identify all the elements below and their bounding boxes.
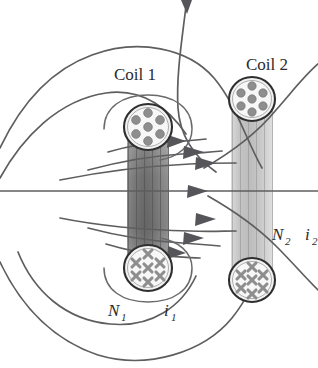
dot-icon: [132, 116, 141, 125]
coil-1-bottom-cross-section: [124, 245, 172, 291]
field-diagram-canvas: Coil 1 Coil 2 N 1 i 1 N 2 i 2: [0, 0, 318, 368]
solenoid-body-coil-2: [231, 100, 273, 278]
coil-2-label: Coil 2: [246, 55, 288, 74]
physics-figure: Coil 1 Coil 2 N 1 i 1 N 2 i 2: [0, 0, 318, 368]
i2-subscript: 2: [312, 235, 318, 247]
n1-subscript: 1: [121, 311, 127, 323]
coil-1-label: Coil 1: [114, 65, 156, 84]
coil-2-bottom-cross-section: [229, 258, 275, 302]
dot-icon: [156, 116, 165, 125]
n1-symbol: N: [107, 301, 121, 320]
dot-icon: [259, 102, 267, 110]
dot-icon: [132, 130, 141, 139]
dot-icon: [248, 108, 256, 116]
i2-symbol: i: [305, 225, 310, 244]
dot-icon: [144, 123, 153, 132]
coil-1-top-cross-section: [124, 104, 172, 150]
i1-subscript: 1: [171, 311, 177, 323]
dot-icon: [248, 95, 256, 103]
dot-icon: [259, 89, 267, 97]
dot-icon: [144, 137, 153, 146]
coil-2-top-cross-section: [229, 77, 275, 121]
i1-symbol: i: [164, 301, 169, 320]
dot-icon: [156, 130, 165, 139]
dot-icon: [237, 102, 245, 110]
dot-icon: [237, 89, 245, 97]
n2-symbol: N: [271, 225, 285, 244]
n2-subscript: 2: [285, 235, 291, 247]
dot-icon: [144, 109, 153, 118]
dot-icon: [248, 82, 256, 90]
